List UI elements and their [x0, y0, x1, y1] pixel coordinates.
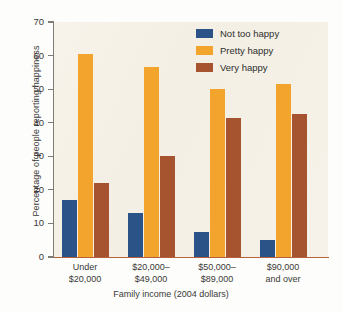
bar [62, 200, 77, 257]
legend-label: Pretty happy [220, 45, 273, 56]
legend-item: Very happy [196, 60, 279, 75]
legend-label: Not too happy [220, 28, 279, 39]
legend-item: Not too happy [196, 26, 279, 41]
y-tick-mark [48, 21, 54, 22]
y-tick-mark [48, 89, 54, 90]
x-tick-label-line: $90,000 [240, 262, 326, 274]
y-tick-mark [48, 223, 54, 224]
bar [292, 114, 307, 257]
x-tick-label: $90,000and over [240, 262, 326, 285]
y-tick-label: 20 [20, 184, 44, 195]
y-tick-label: 60 [20, 50, 44, 61]
x-axis-line [53, 257, 329, 258]
bar [144, 67, 159, 257]
bar [160, 156, 175, 257]
y-tick-mark [48, 189, 54, 190]
legend-item: Pretty happy [196, 43, 279, 58]
y-tick-label: 70 [20, 16, 44, 27]
bar [128, 213, 143, 257]
x-tick-label-line: and over [240, 274, 326, 286]
y-tick-label: 50 [20, 83, 44, 94]
legend-color-swatch [196, 29, 213, 38]
chart-legend: Not too happyPretty happyVery happy [196, 26, 279, 77]
y-tick-label: 40 [20, 117, 44, 128]
y-tick-label: 30 [20, 150, 44, 161]
y-tick-label: 0 [20, 251, 44, 262]
bar [94, 183, 109, 257]
bar [210, 89, 225, 257]
bar [78, 54, 93, 257]
bar [260, 240, 275, 257]
y-tick-label: 10 [20, 217, 44, 228]
bar [226, 118, 241, 257]
y-axis-label: Percentage of people reporting happiness [31, 11, 41, 251]
bar [276, 84, 291, 257]
bar [194, 232, 209, 257]
legend-label: Very happy [220, 62, 268, 73]
legend-color-swatch [196, 63, 213, 72]
legend-color-swatch [196, 46, 213, 55]
y-tick-mark [48, 55, 54, 56]
y-tick-mark [48, 156, 54, 157]
bar-chart-figure: Percentage of people reporting happiness… [0, 0, 342, 313]
y-tick-mark [48, 122, 54, 123]
y-tick-mark [48, 256, 54, 257]
x-axis-label: Family income (2004 dollars) [0, 289, 342, 299]
